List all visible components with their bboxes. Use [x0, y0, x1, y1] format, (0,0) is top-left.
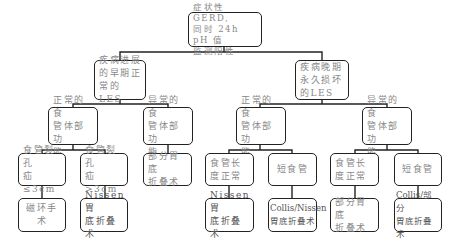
node-short-esophagus-left: 短食管 [268, 153, 317, 186]
node-abnormal-esophageal-function-right: 异常的食 管体部功 能 [362, 107, 412, 145]
root-node-gerd: 症状性 GERD, 同时 24h pH 值 监测阳性 [188, 12, 262, 47]
node-normal-esophageal-length-right: 食管长 度正常 [330, 153, 379, 186]
node-normal-esophageal-function-right: 正常的食 管体部功 能 [236, 107, 286, 145]
node-partial-fundoplication-right: 部分胃底 折叠术 [330, 198, 379, 232]
node-magnetic-ring-surgery: 磁环手术 [18, 198, 66, 232]
node-nissen-fundoplication-left: Nissen 胃 底折叠术 [80, 198, 128, 232]
node-collis-partial-fundoplication: Collis/部分 胃底折叠术 [394, 198, 442, 232]
node-hiatal-hernia-gt3cm: 食管裂孔 疝>3cm [80, 153, 128, 186]
node-normal-esophageal-length-left: 食管长 度正常 [205, 153, 254, 186]
node-collis-nissen-fundoplication: Collis/Nissen 胃底折叠术 [268, 198, 317, 232]
node-hiatal-hernia-le3cm: 食管裂孔 疝≤3cm [18, 153, 66, 186]
node-partial-fundoplication-left: 部分胃底 折叠术 [143, 153, 192, 186]
node-abnormal-esophageal-function-left: 异常的食 管体部功 能 [143, 107, 193, 145]
node-early-normal-les: 疾病进展 的早期正 常的LES [94, 60, 146, 100]
node-normal-esophageal-function-left: 正常的食 管体部功 能 [48, 107, 98, 145]
node-nissen-fundoplication-right: Nissen 胃 底折叠术 [205, 198, 254, 232]
node-short-esophagus-right: 短食管 [394, 153, 442, 186]
node-late-damaged-les: 疾病晚期 永久损坏 的LES [295, 60, 349, 100]
